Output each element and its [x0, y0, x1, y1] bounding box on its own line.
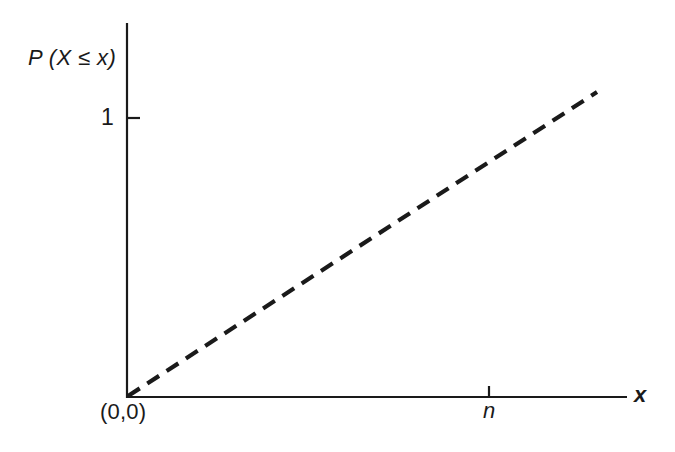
- origin-label: (0,0): [100, 401, 146, 423]
- y-axis-label: P (X ≤ x): [28, 47, 116, 69]
- x-axis-label: x: [634, 384, 646, 406]
- cdf-dashed-line: [128, 92, 597, 396]
- x-tick-label-n: n: [483, 400, 495, 422]
- y-tick-label-1: 1: [101, 106, 114, 129]
- figure-canvas: P (X ≤ x) 1 (0,0) n x: [0, 0, 675, 452]
